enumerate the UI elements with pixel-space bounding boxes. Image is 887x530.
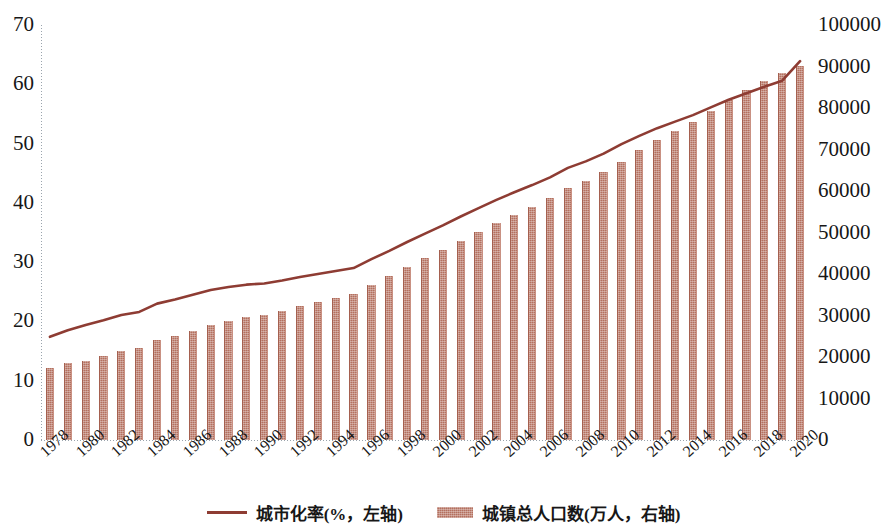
right-axis-tick-90000: 90000 bbox=[818, 56, 871, 77]
plot-area bbox=[41, 25, 809, 440]
right-axis-tick-30000: 30000 bbox=[818, 305, 871, 326]
line-series-urbanization-rate bbox=[41, 25, 809, 440]
left-axis-tick-30: 30 bbox=[13, 251, 34, 272]
legend-label-urban-population: 城镇总人口数(万人，右轴) bbox=[482, 500, 680, 525]
legend-item-urbanization-rate: 城市化率(%，左轴) bbox=[207, 500, 403, 525]
right-axis-tick-80000: 80000 bbox=[818, 97, 871, 118]
right-axis-tick-60000: 60000 bbox=[818, 180, 871, 201]
legend-line-swatch-icon bbox=[207, 511, 247, 514]
legend-item-urban-population: 城镇总人口数(万人，右轴) bbox=[437, 500, 680, 525]
right-axis-tick-10000: 10000 bbox=[818, 388, 871, 409]
left-axis-tick-20: 20 bbox=[13, 310, 34, 331]
left-axis-tick-60: 60 bbox=[13, 73, 34, 94]
right-axis-tick-70000: 70000 bbox=[818, 139, 871, 160]
legend-label-urbanization-rate: 城市化率(%，左轴) bbox=[256, 500, 403, 525]
legend-bar-swatch-icon bbox=[437, 507, 473, 518]
urbanization-chart: 010203040506070 010000200003000040000500… bbox=[0, 0, 887, 530]
right-axis-tick-50000: 50000 bbox=[818, 222, 871, 243]
left-axis-tick-0: 0 bbox=[24, 429, 35, 450]
right-axis-tick-40000: 40000 bbox=[818, 263, 871, 284]
right-axis-tick-20000: 20000 bbox=[818, 346, 871, 367]
left-axis-tick-40: 40 bbox=[13, 192, 34, 213]
left-axis-tick-10: 10 bbox=[13, 370, 34, 391]
right-axis-tick-100000: 100000 bbox=[818, 14, 881, 35]
left-axis-tick-70: 70 bbox=[13, 14, 34, 35]
right-axis-line bbox=[809, 25, 810, 441]
left-axis-tick-50: 50 bbox=[13, 133, 34, 154]
chart-legend: 城市化率(%，左轴) 城镇总人口数(万人，右轴) bbox=[0, 500, 887, 525]
